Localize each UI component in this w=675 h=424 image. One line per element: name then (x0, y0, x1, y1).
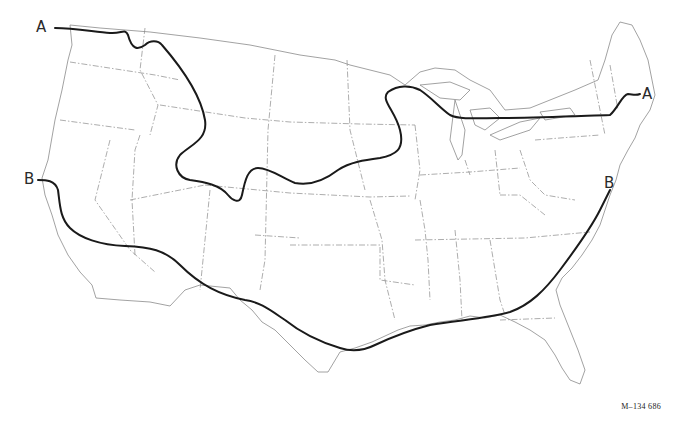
us-coastline (42, 22, 655, 384)
boundary-line-b (38, 180, 610, 350)
line-a-west-label: A (36, 20, 46, 35)
line-b-east-label: B (604, 176, 614, 191)
line-b-west-label: B (24, 172, 34, 187)
boundary-line-a (55, 28, 640, 201)
us-map: A A B B M–134 686 (0, 0, 675, 424)
state-borders (60, 28, 618, 320)
figure-id: M–134 686 (621, 402, 661, 411)
line-a-east-label: A (642, 87, 652, 102)
map-graphic (0, 0, 675, 424)
great-lakes (420, 82, 575, 160)
